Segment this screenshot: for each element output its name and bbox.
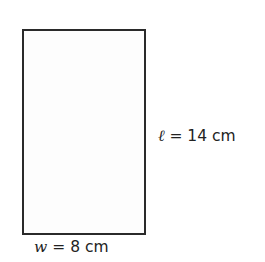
length-equals: = [164,127,187,145]
width-variable: w [34,238,47,256]
width-equals: = [47,238,70,256]
width-label: w = 8 cm [34,240,109,256]
rectangle-shape [22,29,146,235]
width-value: 8 cm [70,238,108,256]
length-label: ℓ = 14 cm [158,129,236,145]
length-value: 14 cm [187,127,235,145]
